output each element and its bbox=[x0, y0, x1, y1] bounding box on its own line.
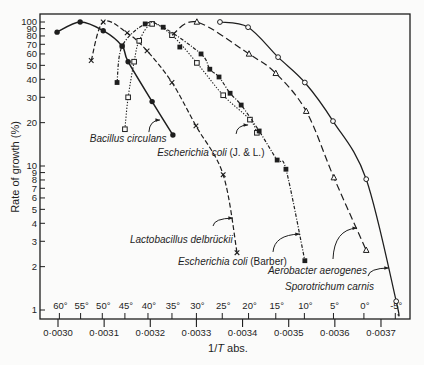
arrowhead-icon bbox=[295, 232, 300, 236]
label-arrow-shaft bbox=[333, 228, 357, 259]
open-triangle-marker bbox=[246, 51, 252, 56]
series-escherichia-coli-jl bbox=[123, 22, 260, 136]
filled-square-marker bbox=[161, 25, 166, 30]
temperature-tick-label: 60° bbox=[53, 300, 68, 311]
curve-label-text: Sporotrichum carnis bbox=[285, 281, 374, 292]
y-tick-label: 50 bbox=[26, 60, 37, 71]
filled-circle-marker bbox=[149, 99, 154, 104]
curve-label-species: Sporotrichum carnis bbox=[285, 281, 374, 292]
open-circle-marker bbox=[302, 80, 307, 85]
curve-label-species: Escherichia coli bbox=[178, 256, 248, 267]
temperature-tick-label: 5° bbox=[330, 300, 339, 311]
temperature-tick-label: 35° bbox=[166, 300, 181, 311]
curve-label-species: Aerobacter aerogenes bbox=[267, 265, 367, 276]
filled-square-marker bbox=[177, 45, 182, 50]
curve-label-escherichia-coli-jl: Escherichia coli (J. & L.) bbox=[157, 123, 264, 158]
curve-label-text: Aerobacter aerogenes bbox=[267, 265, 367, 276]
curve-labels: Bacillus circulansLactobacillus delbrück… bbox=[90, 118, 389, 291]
x-tick-label: 0·0035 bbox=[274, 327, 304, 338]
open-triangle-marker bbox=[363, 247, 369, 252]
filled-circle-marker bbox=[101, 28, 106, 33]
open-triangle-marker bbox=[331, 174, 337, 179]
y-tick-label: 1 bbox=[32, 304, 37, 315]
filled-circle-marker bbox=[54, 29, 59, 34]
open-square-marker bbox=[137, 39, 142, 44]
x-axis-title-post: abs. bbox=[224, 342, 248, 354]
temperature-tick-label: 40° bbox=[142, 300, 157, 311]
curve-label-source: (J. & L.) bbox=[227, 147, 265, 158]
y-tick-label: 40 bbox=[26, 74, 37, 85]
curve-label-species: Escherichia coli bbox=[157, 147, 227, 158]
temperature-tick-label: 50° bbox=[96, 300, 111, 311]
y-tick-label: 20 bbox=[26, 117, 37, 128]
curve-label-aerobacter-aerogenes: Aerobacter aerogenes bbox=[267, 227, 367, 276]
curve-label-species: Lactobacillus delbrückii bbox=[130, 234, 234, 245]
x-marker bbox=[125, 31, 130, 36]
x-marker bbox=[194, 124, 199, 129]
y-axis-ticks: 100908070605040302010987654321 bbox=[21, 16, 45, 315]
filled-circle-marker bbox=[125, 59, 130, 64]
filled-square-marker bbox=[120, 44, 125, 49]
temperature-tick-label: 45° bbox=[119, 300, 134, 311]
temperature-axis-ticks: 60°55°50°45°40°35°30°25°20°15°10°5°0°-5° bbox=[53, 300, 402, 319]
x-marker bbox=[145, 49, 150, 54]
x-tick-label: 0·0036 bbox=[320, 327, 350, 338]
x-tick-label: 0·0031 bbox=[89, 327, 119, 338]
arrowhead-icon bbox=[155, 118, 160, 122]
x-marker bbox=[101, 20, 106, 25]
open-circle-marker bbox=[218, 20, 223, 25]
x-axis-title: 1/T abs. bbox=[208, 342, 248, 354]
filled-square-marker bbox=[284, 167, 289, 172]
filled-square-marker bbox=[302, 258, 307, 263]
filled-square-marker bbox=[199, 52, 204, 57]
y-axis-title: Rate of growth (%) bbox=[9, 121, 21, 213]
y-tick-label: 5 bbox=[32, 204, 37, 215]
temperature-tick-label: 15° bbox=[270, 300, 285, 311]
open-circle-marker bbox=[394, 299, 399, 304]
y-tick-label: 3 bbox=[32, 236, 37, 247]
curve-label-text: Lactobacillus delbrückii bbox=[130, 234, 234, 245]
temperature-tick-label: 20° bbox=[242, 300, 257, 311]
label-arrow-shaft bbox=[273, 234, 300, 252]
filled-circle-marker bbox=[170, 132, 175, 137]
open-square-marker bbox=[132, 59, 137, 64]
temperature-tick-label: 25° bbox=[216, 300, 231, 311]
filled-square-marker bbox=[228, 91, 233, 96]
y-tick-label: 30 bbox=[26, 92, 37, 103]
arrowhead-icon bbox=[244, 123, 249, 127]
curve-label-bacillus-circulans: Bacillus circulans bbox=[90, 118, 167, 144]
temperature-tick-label: 30° bbox=[190, 300, 205, 311]
x-axis-ticks: 0·00300·00310·00320·00330·00340·00350·00… bbox=[43, 319, 396, 338]
filled-square-marker bbox=[217, 75, 222, 80]
open-square-marker bbox=[221, 93, 226, 98]
temperature-tick-label: 0° bbox=[360, 300, 369, 311]
x-tick-label: 0·0037 bbox=[366, 327, 396, 338]
x-marker bbox=[170, 80, 175, 85]
temperature-tick-label: 10° bbox=[298, 300, 313, 311]
filled-square-marker bbox=[115, 80, 120, 85]
series-curve bbox=[57, 22, 173, 135]
open-square-marker bbox=[195, 61, 200, 66]
open-circle-marker bbox=[276, 55, 281, 60]
open-circle-marker bbox=[331, 119, 336, 124]
curve-label-text: Bacillus circulans bbox=[90, 133, 167, 144]
y-tick-label: 6 bbox=[32, 192, 37, 203]
filled-square-marker bbox=[143, 22, 148, 27]
curve-label-lactobacillus-delbrueckii: Lactobacillus delbrückii bbox=[130, 216, 234, 245]
filled-circle-marker bbox=[77, 19, 82, 24]
open-circle-marker bbox=[364, 177, 369, 182]
filled-square-marker bbox=[275, 158, 280, 163]
x-tick-label: 0·0030 bbox=[43, 327, 73, 338]
label-arrow-shaft bbox=[149, 120, 160, 132]
curve-label-species: Bacillus circulans bbox=[90, 133, 167, 144]
filled-square-marker bbox=[257, 129, 262, 134]
open-square-marker bbox=[123, 127, 128, 132]
open-circle-marker bbox=[246, 25, 251, 30]
label-arrow-shaft bbox=[236, 125, 248, 134]
y-tick-label: 2 bbox=[32, 261, 37, 272]
filled-square-marker bbox=[207, 67, 212, 72]
x-tick-label: 0·0034 bbox=[228, 327, 258, 338]
filled-square-marker bbox=[239, 103, 244, 108]
temperature-tick-label: 55° bbox=[74, 300, 89, 311]
y-tick-label: 60 bbox=[26, 48, 37, 59]
